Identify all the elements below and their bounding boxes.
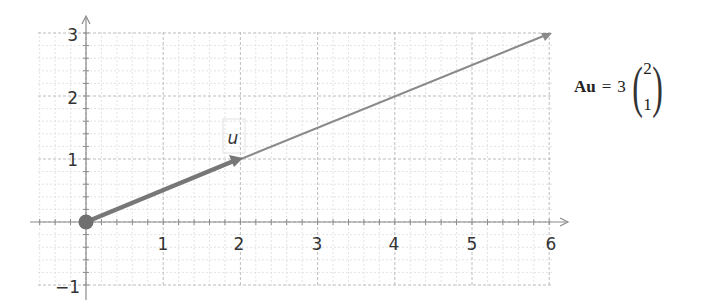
right-paren-icon: ): [652, 58, 663, 116]
vector-bottom-entry: 1: [643, 95, 652, 115]
coordinate-plot: 1 2 3 4 5 6 3 2 1 −1 u: [0, 0, 570, 304]
x-tick-label: 6: [546, 234, 557, 254]
x-tick-label: 2: [234, 234, 245, 254]
vector-u[interactable]: [86, 160, 236, 222]
vector-top-entry: 2: [643, 59, 652, 79]
y-tick-label: 1: [67, 150, 78, 170]
y-tick-label: −1: [55, 277, 80, 297]
column-vector: 2 1: [643, 59, 652, 115]
origin-point[interactable]: [79, 215, 94, 230]
equation: Au = 3 ( 2 1 ): [574, 58, 667, 116]
left-paren-icon: (: [632, 58, 643, 116]
equation-scalar: 3: [617, 77, 626, 97]
x-tick-label: 4: [389, 234, 400, 254]
equals-sign: =: [602, 77, 612, 97]
vector-label-u: u: [228, 128, 239, 148]
x-tick-label: 5: [467, 234, 478, 254]
y-tick-label: 2: [67, 88, 78, 108]
y-tick-label: 3: [67, 25, 78, 45]
equation-lhs: Au: [574, 77, 596, 97]
x-tick-label: 3: [312, 234, 323, 254]
x-tick-label: 1: [158, 234, 169, 254]
